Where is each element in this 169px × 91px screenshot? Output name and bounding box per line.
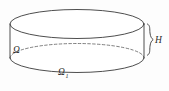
label-base-domain-subscript: 1 <box>66 73 69 79</box>
cylinder-diagram-svg: Ω Ω 1 H <box>0 0 169 91</box>
height-brace <box>148 24 154 55</box>
label-height: H <box>154 35 163 45</box>
label-side-domain: Ω <box>13 45 20 55</box>
label-base-domain: Ω <box>58 67 65 77</box>
cylinder-figure: Ω Ω 1 H <box>0 0 169 91</box>
